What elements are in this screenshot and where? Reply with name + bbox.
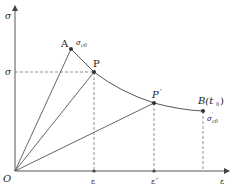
point-b-label: B(t (197, 95, 214, 106)
point-p-prime-label: P (151, 89, 159, 100)
sigma-prime-mark: ′ (212, 110, 214, 117)
point-p-label: P (93, 58, 100, 69)
point-p-prime-mark: ′ (160, 87, 162, 96)
point-b-sub: 0 (216, 101, 219, 107)
sigma-tick-label: σ (5, 67, 12, 77)
point-b-close: ) (220, 95, 224, 106)
sigma-prime-c0-sub: c0 (212, 118, 219, 124)
tick-epsilon (92, 169, 95, 172)
point-p-prime (152, 101, 156, 105)
ray-op-prime (15, 103, 154, 171)
y-axis-label: σ (5, 11, 12, 21)
point-p (92, 70, 96, 74)
epsilon-r-sub: r (156, 176, 159, 181)
ray-oa (15, 49, 71, 171)
epsilon-r-tick-label: ε (151, 177, 155, 186)
x-axis-label: ε (220, 177, 224, 186)
origin-label: O (3, 173, 11, 184)
tick-epsilon-r (152, 169, 155, 172)
point-b (201, 109, 205, 113)
epsilon-tick-label: ε (91, 177, 95, 186)
point-a-label: A (60, 38, 69, 49)
stress-strain-diagram: σ σ O ε ε ε r A σ c0 P P ′ B(t 0 ) σ ′ c… (0, 0, 230, 195)
relaxation-curve (71, 49, 203, 111)
ray-op (15, 72, 94, 171)
sigma-c0-sub: c0 (81, 42, 88, 48)
point-a (69, 47, 73, 51)
